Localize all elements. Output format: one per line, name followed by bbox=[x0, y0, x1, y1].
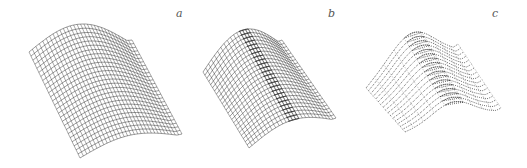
mesh-line bbox=[224, 44, 272, 131]
surface-panel-a bbox=[29, 24, 182, 158]
mesh-line bbox=[60, 30, 111, 142]
mesh-line bbox=[267, 35, 320, 118]
mesh-line bbox=[80, 133, 182, 158]
surface-panel-b bbox=[203, 29, 336, 148]
mesh-line bbox=[282, 40, 336, 118]
mesh-line bbox=[440, 42, 482, 109]
panel-label-c: c bbox=[492, 7, 498, 20]
mesh-line bbox=[70, 26, 121, 138]
mesh-line bbox=[41, 50, 144, 77]
mesh-line bbox=[403, 97, 499, 129]
mesh-line bbox=[450, 46, 493, 110]
mesh-line bbox=[422, 33, 464, 103]
mesh-line bbox=[383, 62, 477, 107]
mesh-line bbox=[378, 54, 471, 102]
figure: a b c bbox=[0, 0, 527, 168]
mesh-line bbox=[203, 72, 249, 148]
panel-label-b: b bbox=[328, 7, 335, 20]
mesh-line bbox=[53, 75, 156, 101]
mesh-line bbox=[206, 68, 252, 146]
surface-meshes bbox=[0, 0, 527, 168]
mesh-line bbox=[111, 32, 161, 134]
surface-panel-c bbox=[366, 32, 501, 132]
mesh-line bbox=[458, 44, 501, 108]
mesh-line bbox=[386, 67, 480, 110]
mesh-line bbox=[118, 36, 168, 135]
panel-label-a: a bbox=[176, 7, 183, 20]
mesh-line bbox=[215, 55, 262, 137]
mesh-line bbox=[43, 54, 146, 81]
mesh-line bbox=[105, 29, 155, 133]
mesh-line bbox=[209, 64, 256, 143]
mesh-line bbox=[398, 89, 493, 124]
mesh-line bbox=[39, 45, 142, 72]
mesh-line bbox=[70, 113, 172, 138]
